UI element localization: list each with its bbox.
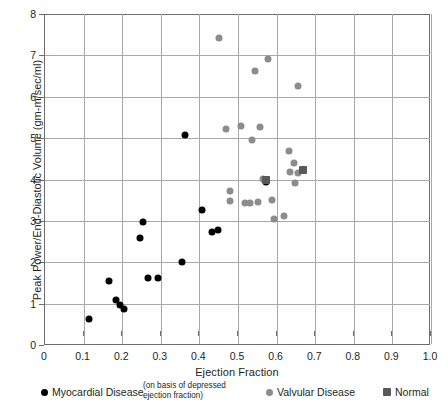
x-tick-label: 1.0 bbox=[423, 350, 438, 362]
data-point bbox=[223, 126, 230, 133]
data-point bbox=[121, 305, 128, 312]
x-tick bbox=[276, 331, 277, 336]
legend-note: (on basis of depressed ejection fraction… bbox=[143, 381, 238, 400]
x-axis-title: Ejection Fraction bbox=[44, 366, 430, 378]
data-point bbox=[214, 227, 221, 234]
normal-marker-icon bbox=[383, 388, 391, 396]
data-point bbox=[105, 277, 112, 284]
data-point bbox=[268, 197, 275, 204]
x-tick-label: 0 bbox=[41, 350, 47, 362]
data-point bbox=[226, 198, 233, 205]
data-point bbox=[294, 83, 301, 90]
valvular-marker-icon bbox=[266, 389, 273, 396]
data-point bbox=[179, 259, 186, 266]
data-point bbox=[270, 215, 277, 222]
gridline-horizontal bbox=[45, 304, 430, 305]
gridline-horizontal bbox=[45, 180, 430, 181]
x-tick bbox=[198, 331, 199, 336]
legend-note-line1: (on basis of depressed bbox=[143, 381, 238, 391]
x-tick-label: 0.1 bbox=[75, 350, 90, 362]
plot-area bbox=[44, 14, 430, 345]
x-tick-label: 0.2 bbox=[114, 350, 129, 362]
data-point bbox=[145, 274, 152, 281]
data-point bbox=[238, 122, 245, 129]
x-tick-label: 0.9 bbox=[384, 350, 399, 362]
data-point bbox=[292, 179, 299, 186]
legend-note-line2: ejection fraction) bbox=[143, 391, 238, 401]
x-tick bbox=[121, 331, 122, 336]
gridline-horizontal bbox=[45, 55, 430, 56]
data-point bbox=[265, 55, 272, 62]
data-point bbox=[136, 235, 143, 242]
data-point bbox=[140, 219, 147, 226]
data-point bbox=[255, 199, 262, 206]
y-axis-title: Peak Power/End-Diastolic Volume (gm-m/se… bbox=[31, 25, 43, 335]
x-tick-label: 0.7 bbox=[307, 350, 322, 362]
x-tick-label: 0.3 bbox=[152, 350, 167, 362]
legend-label-valvular: Valvular Disease bbox=[277, 386, 355, 398]
data-point bbox=[287, 169, 294, 176]
data-point bbox=[262, 176, 270, 184]
data-point bbox=[257, 123, 264, 130]
x-tick bbox=[353, 331, 354, 336]
y-tick-label: 0 bbox=[10, 339, 36, 351]
x-tick-label: 0.4 bbox=[191, 350, 206, 362]
scatter-chart: 00.10.20.30.40.50.60.70.80.91.0 01234567… bbox=[0, 0, 448, 402]
legend-item-normal: Normal bbox=[383, 386, 429, 398]
data-point bbox=[86, 316, 93, 323]
x-tick bbox=[160, 331, 161, 336]
x-tick bbox=[391, 331, 392, 336]
gridline-vertical bbox=[431, 14, 432, 344]
data-point bbox=[252, 68, 259, 75]
data-point bbox=[290, 159, 297, 166]
data-point bbox=[299, 166, 307, 174]
y-tick-label: 8 bbox=[10, 8, 36, 20]
y-tick bbox=[39, 345, 44, 346]
x-tick-label: 0.5 bbox=[230, 350, 245, 362]
legend-label-normal: Normal bbox=[395, 386, 429, 398]
data-point bbox=[246, 200, 253, 207]
x-tick-label: 0.6 bbox=[268, 350, 283, 362]
x-tick bbox=[430, 331, 431, 336]
legend-label-myocardial: Myocardial Disease bbox=[52, 386, 144, 398]
data-point bbox=[281, 212, 288, 219]
data-point bbox=[181, 132, 188, 139]
data-point bbox=[199, 206, 206, 213]
legend-item-valvular: Valvular Disease bbox=[266, 386, 355, 398]
x-tick bbox=[44, 331, 45, 336]
legend-item-myocardial: Myocardial Disease bbox=[41, 386, 144, 398]
data-point bbox=[215, 34, 222, 41]
gridline-horizontal bbox=[45, 138, 430, 139]
data-point bbox=[248, 137, 255, 144]
data-point bbox=[154, 274, 161, 281]
x-tick-label: 0.8 bbox=[345, 350, 360, 362]
data-point bbox=[227, 188, 234, 195]
gridline-horizontal bbox=[45, 221, 430, 222]
data-point bbox=[285, 147, 292, 154]
myocardial-marker-icon bbox=[41, 389, 48, 396]
x-tick bbox=[314, 331, 315, 336]
y-tick bbox=[39, 14, 44, 15]
x-tick bbox=[83, 331, 84, 336]
x-tick bbox=[237, 331, 238, 336]
gridline-horizontal bbox=[45, 262, 430, 263]
gridline-horizontal bbox=[45, 97, 430, 98]
chart-legend: Myocardial Disease (on basis of depresse… bbox=[0, 381, 448, 402]
